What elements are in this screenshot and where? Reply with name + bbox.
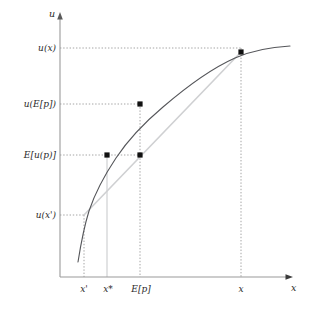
x-axis-arrow-icon xyxy=(286,274,294,280)
certainty-equivalent-point xyxy=(104,152,109,157)
u-of-Ep-point xyxy=(137,101,142,106)
x-tick-label-x-prime: x' xyxy=(80,285,88,294)
axes-lines xyxy=(57,12,293,280)
u-of-x-point xyxy=(238,49,243,54)
x-tick-label-x-star: x* xyxy=(103,285,113,294)
y-tick-label-E-of-u-p: E[u(p)] xyxy=(0,151,56,160)
y-axis-arrow-icon xyxy=(57,12,63,20)
y-tick-label-u-of-x-prime: u(x') xyxy=(0,211,56,220)
x-tick-label-x: x xyxy=(238,285,243,294)
utility-curve xyxy=(78,46,290,262)
chord-line xyxy=(84,52,241,215)
expected-utility-point xyxy=(137,152,142,157)
horizontal-guide-lines xyxy=(60,48,241,215)
y-tick-label-u-of-x: u(x) xyxy=(0,44,56,53)
utility-function-figure: u x u(x) u(E[p]) E[u(p)] u(x') x' x* E[p… xyxy=(0,0,312,312)
y-tick-label-u-of-Ep: u(E[p]) xyxy=(0,100,56,109)
x-axis-title: x xyxy=(291,283,296,293)
vertical-guide-lines xyxy=(84,48,241,277)
y-axis-title: u xyxy=(49,9,55,19)
x-tick-label-E-of-p: E[p] xyxy=(131,285,150,294)
data-point-markers xyxy=(104,49,243,157)
